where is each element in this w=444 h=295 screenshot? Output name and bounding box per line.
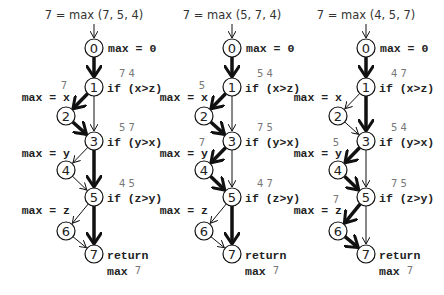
assign-value: 5 bbox=[199, 80, 205, 91]
panel-title: 7 = max (7, 5, 4) bbox=[45, 8, 144, 22]
control-flow-diagram: 7 = max (7, 5, 4)01234567max = 0if (x>z)… bbox=[0, 0, 444, 295]
edge-1-2 bbox=[345, 93, 360, 108]
node-number: 5 bbox=[362, 190, 370, 205]
condition-values: 4 7 bbox=[257, 178, 273, 189]
return-value: 7 bbox=[135, 265, 141, 276]
init-statement: max = 0 bbox=[246, 42, 294, 55]
node-2: 2 bbox=[195, 107, 213, 125]
node-number: 1 bbox=[228, 80, 236, 95]
panel-2: 7 = max (5, 7, 4)01234567max = 0if (x>z)… bbox=[160, 8, 301, 278]
node-number: 2 bbox=[200, 109, 208, 124]
node-number: 1 bbox=[362, 80, 370, 95]
panel-1: 7 = max (7, 5, 4)01234567max = 0if (x>z)… bbox=[22, 8, 163, 278]
condition-y-gt-x: if (y>x) bbox=[379, 136, 434, 149]
assign-max-z: max = z bbox=[22, 204, 70, 217]
condition-x-gt-z: if (x>z) bbox=[379, 82, 434, 95]
edge-5-6 bbox=[210, 204, 226, 223]
taken-edge-1-2 bbox=[211, 93, 226, 108]
node-2: 2 bbox=[329, 107, 347, 125]
node-number: 3 bbox=[228, 134, 236, 149]
init-statement: max = 0 bbox=[380, 42, 428, 55]
assign-value: 7 bbox=[61, 80, 67, 91]
node-6: 6 bbox=[329, 222, 347, 240]
node-number: 6 bbox=[200, 224, 208, 239]
assign-max-z: max = z bbox=[294, 204, 342, 217]
condition-y-gt-x: if (y>x) bbox=[107, 136, 162, 149]
taken-edge-6-7 bbox=[345, 237, 358, 248]
node-number: 4 bbox=[62, 163, 70, 178]
condition-values: 7 5 bbox=[257, 122, 273, 133]
assign-value: 7 bbox=[199, 137, 205, 148]
taken-edge-3-4 bbox=[345, 147, 360, 162]
taken-edge-4-5 bbox=[210, 176, 224, 190]
assign-value: 7 bbox=[333, 194, 339, 205]
node-0: 0 bbox=[357, 39, 375, 57]
taken-edge-3-4 bbox=[211, 147, 226, 162]
panel-3: 7 = max (4, 5, 7)01234567max = 0if (x>z)… bbox=[294, 8, 435, 278]
node-6: 6 bbox=[57, 222, 75, 240]
node-1: 1 bbox=[357, 78, 375, 96]
condition-values: 7 5 bbox=[391, 178, 407, 189]
condition-values: 4 5 bbox=[119, 178, 135, 189]
assign-max-y: max = y bbox=[294, 147, 342, 160]
condition-x-gt-z: if (x>z) bbox=[245, 82, 300, 95]
node-7: 7 bbox=[357, 245, 375, 263]
node-5: 5 bbox=[357, 188, 375, 206]
node-number: 2 bbox=[62, 109, 70, 124]
assign-max-y: max = y bbox=[160, 147, 208, 160]
edge-6-7 bbox=[73, 237, 86, 248]
node-0: 0 bbox=[223, 39, 241, 57]
node-number: 4 bbox=[334, 163, 342, 178]
node-4: 4 bbox=[57, 161, 75, 179]
node-number: 6 bbox=[334, 224, 342, 239]
node-3: 3 bbox=[357, 132, 375, 150]
assign-value: 5 bbox=[333, 137, 339, 148]
node-number: 2 bbox=[334, 109, 342, 124]
condition-values: 5 7 bbox=[119, 122, 135, 133]
node-number: 4 bbox=[200, 163, 208, 178]
edge-5-6 bbox=[72, 204, 88, 223]
node-number: 5 bbox=[228, 190, 236, 205]
assign-max-x: max = x bbox=[22, 91, 70, 104]
return-statement: return bbox=[379, 249, 421, 262]
node-7: 7 bbox=[85, 245, 103, 263]
condition-x-gt-z: if (x>z) bbox=[107, 82, 162, 95]
return-value: 7 bbox=[407, 265, 413, 276]
node-number: 0 bbox=[90, 41, 98, 56]
panel-title: 7 = max (5, 7, 4) bbox=[183, 8, 282, 22]
init-statement: max = 0 bbox=[108, 42, 156, 55]
node-number: 1 bbox=[90, 80, 98, 95]
node-number: 7 bbox=[362, 247, 370, 262]
return-variable: max bbox=[245, 265, 266, 278]
edge-4-5 bbox=[72, 176, 86, 190]
panel-title: 7 = max (4, 5, 7) bbox=[317, 8, 416, 22]
node-1: 1 bbox=[85, 78, 103, 96]
node-number: 7 bbox=[90, 247, 98, 262]
return-variable: max bbox=[379, 265, 400, 278]
return-statement: return bbox=[245, 249, 287, 262]
node-5: 5 bbox=[223, 188, 241, 206]
node-number: 3 bbox=[90, 134, 98, 149]
taken-edge-2-3 bbox=[73, 122, 87, 134]
node-number: 7 bbox=[228, 247, 236, 262]
condition-values: 5 4 bbox=[391, 122, 407, 133]
assign-max-x: max = x bbox=[294, 91, 342, 104]
node-number: 0 bbox=[362, 41, 370, 56]
return-value: 7 bbox=[273, 265, 279, 276]
condition-values: 5 4 bbox=[257, 68, 273, 79]
return-statement: return bbox=[107, 249, 149, 262]
condition-values: 4 7 bbox=[391, 68, 407, 79]
return-variable: max bbox=[107, 265, 128, 278]
node-6: 6 bbox=[195, 222, 213, 240]
node-number: 3 bbox=[362, 134, 370, 149]
node-1: 1 bbox=[223, 78, 241, 96]
node-4: 4 bbox=[329, 161, 347, 179]
node-number: 0 bbox=[228, 41, 236, 56]
edge-6-7 bbox=[211, 237, 224, 248]
condition-y-gt-x: if (y>x) bbox=[245, 136, 300, 149]
node-5: 5 bbox=[85, 188, 103, 206]
edge-2-3 bbox=[345, 122, 359, 134]
condition-z-gt-y: if (z>y) bbox=[245, 192, 300, 205]
assign-max-y: max = y bbox=[22, 147, 70, 160]
node-4: 4 bbox=[195, 161, 213, 179]
